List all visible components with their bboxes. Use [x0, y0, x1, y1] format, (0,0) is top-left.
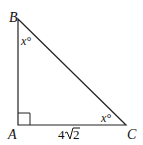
- triangle-diagram: B A C x° x° 4 2: [0, 0, 143, 145]
- right-angle-marker: [18, 113, 30, 125]
- angle-c-label: x°: [100, 111, 111, 125]
- side-ac-radicand: 2: [73, 127, 80, 142]
- vertex-label-c: C: [127, 127, 137, 142]
- vertex-label-b: B: [9, 10, 18, 25]
- angle-b-label: x°: [20, 34, 31, 48]
- side-ac-coefficient: 4: [58, 127, 65, 142]
- side-ac-label: 4 2: [58, 127, 80, 142]
- vertex-label-a: A: [7, 127, 17, 142]
- triangle-abc: [18, 19, 126, 125]
